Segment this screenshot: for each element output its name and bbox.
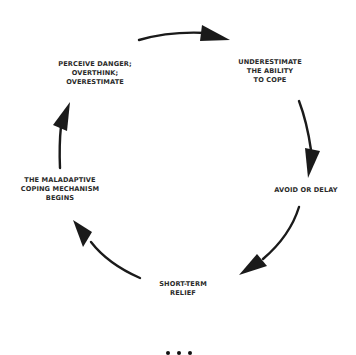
arrow-perceive-to-underestimate	[139, 25, 230, 41]
ellipsis-dot	[177, 351, 181, 355]
arrow-relief-to-maladaptive	[73, 220, 201, 279]
ellipsis-dot	[188, 351, 192, 355]
arrow-underestimate-to-avoid	[299, 101, 320, 178]
arrow-maladaptive-to-perceive	[53, 102, 70, 168]
arrows-layer	[0, 0, 356, 355]
ellipsis-dot	[166, 351, 170, 355]
arrow-avoid-to-relief	[239, 207, 299, 275]
